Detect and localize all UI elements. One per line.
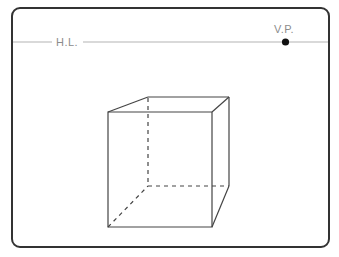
horizon-line-label: H.L. — [56, 36, 78, 48]
vanishing-point-dot — [282, 38, 289, 45]
diagram-canvas: H.L. V.P. — [0, 0, 339, 257]
perspective-diagram: H.L. V.P. — [0, 0, 339, 257]
vanishing-point-label: V.P. — [274, 23, 294, 35]
